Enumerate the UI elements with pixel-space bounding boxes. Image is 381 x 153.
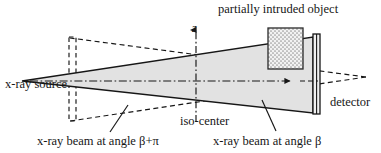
beam-beta-plus-pi-label: x-ray beam at angle β+π (37, 135, 159, 148)
beam-beta-label: x-ray beam at angle β (213, 135, 321, 148)
z-axis-label: z (192, 22, 197, 35)
object-label: partially intruded object (218, 3, 338, 16)
detector-label: detector (330, 96, 370, 109)
iso-center-label: iso-center (180, 115, 229, 128)
partially-intruded-object (268, 28, 303, 69)
object-rect (268, 28, 303, 69)
leader-line-beta-plus-pi (110, 105, 128, 132)
ct-geometry-figure: partially intruded object x-ray source d… (0, 0, 381, 153)
detector-bar (313, 34, 320, 114)
x-ray-source-label: x-ray source (5, 78, 67, 91)
